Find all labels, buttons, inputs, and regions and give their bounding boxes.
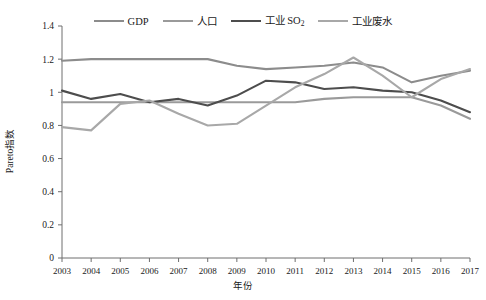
pareto-index-line-chart: GDP人口工业 SO2工业废水 00.20.40.60.811.21.42003… — [0, 0, 486, 300]
y-axis-tick-label: 0.8 — [42, 121, 54, 131]
x-axis-tick-label: 2017 — [461, 266, 480, 276]
x-axis-tick-label: 2010 — [257, 266, 276, 276]
x-axis-tick-label: 2013 — [344, 266, 363, 276]
x-axis-tick-label: 2005 — [111, 266, 130, 276]
series-line-0[interactable] — [62, 59, 470, 82]
x-axis-tick-label: 2015 — [403, 266, 422, 276]
x-axis-title-text: 年份 — [0, 278, 486, 292]
plot-area: 00.20.40.60.811.21.420032004200520062007… — [0, 0, 486, 300]
x-axis-tick-label: 2009 — [228, 266, 247, 276]
x-axis-tick-label: 2011 — [286, 266, 304, 276]
y-axis-tick-label: 1.4 — [42, 21, 54, 31]
x-axis-tick-label: 2006 — [140, 266, 159, 276]
x-axis-tick-label: 2003 — [53, 266, 72, 276]
x-axis-tick-label: 2008 — [199, 266, 218, 276]
y-axis-title: Pareto指数 — [2, 96, 16, 206]
x-axis-tick-label: 2012 — [315, 266, 333, 276]
x-axis-tick-label: 2004 — [82, 266, 101, 276]
y-axis-tick-label: 0.2 — [42, 220, 54, 230]
x-axis-tick-label: 2016 — [432, 266, 451, 276]
y-axis-tick-label: 0 — [49, 253, 54, 263]
x-axis-tick-label: 2014 — [374, 266, 393, 276]
y-axis-tick-label: 1.2 — [42, 55, 54, 65]
y-axis-tick-label: 1 — [49, 88, 54, 98]
y-axis-tick-label: 0.4 — [42, 187, 54, 197]
x-axis-tick-label: 2007 — [170, 266, 189, 276]
y-axis-tick-label: 0.6 — [42, 154, 54, 164]
y-axis-title-text: Pareto指数 — [2, 96, 16, 206]
series-line-1[interactable] — [62, 97, 470, 119]
